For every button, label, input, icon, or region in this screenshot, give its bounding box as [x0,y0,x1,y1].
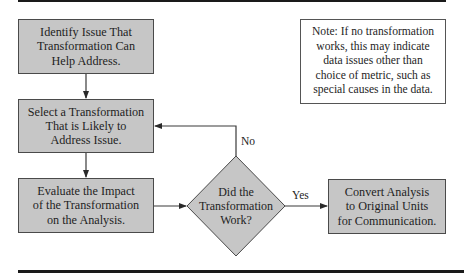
step-convert-analysis: Convert Analysis to Original Units for C… [328,179,446,234]
step-identify-issue-label: Identify Issue That Transformation Can H… [37,25,135,68]
step-evaluate-impact-label: Evaluate the Impact of the Transformatio… [33,184,139,227]
arrow-decision-no [155,126,236,156]
yes-label: Yes [292,189,309,201]
decision-label: Did the Transformation Work? [187,185,285,227]
step-select-transformation: Select a Transformation That is Likely t… [18,99,154,153]
step-evaluate-impact: Evaluate the Impact of the Transformatio… [18,178,154,233]
note-text: Note: If no transformation works, this m… [312,25,434,98]
step-convert-analysis-label: Convert Analysis to Original Units for C… [338,185,437,228]
step-identify-issue: Identify Issue That Transformation Can H… [18,19,154,74]
bottom-rule [18,270,464,273]
note-box: Note: If no transformation works, this m… [300,19,446,104]
step-select-transformation-label: Select a Transformation That is Likely t… [28,105,144,148]
no-label: No [241,135,255,147]
